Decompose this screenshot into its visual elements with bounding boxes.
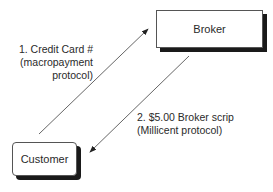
edge-label-line: (Millicent protocol) [137,124,234,137]
edge-label-credit-card: 1. Credit Card # (macropayment protocol) [19,43,93,82]
edge-label-line: 1. Credit Card # [19,43,93,56]
edge-label-broker-scrip: 2. $5.00 Broker scrip (Millicent protoco… [137,111,234,137]
edge-label-line: (macropayment [19,56,93,69]
edge-label-line: protocol) [19,69,93,82]
broker-node: Broker [156,10,263,48]
broker-label: Broker [193,23,225,35]
customer-label: Customer [21,153,69,165]
edge-label-line: 2. $5.00 Broker scrip [137,111,234,124]
customer-node: Customer [12,142,77,176]
